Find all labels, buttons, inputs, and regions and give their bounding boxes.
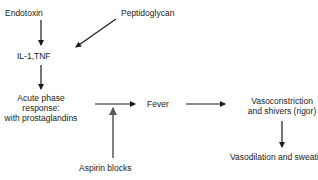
node-endotoxin: Endotoxin xyxy=(5,8,43,18)
vasoconstriction-line-2: and shivers (rigor) xyxy=(243,106,318,116)
node-il1-tnf: IL-1,TNF xyxy=(17,51,51,61)
node-fever: Fever xyxy=(147,99,169,109)
node-aspirin: Aspirin blocks xyxy=(79,163,131,173)
vasoconstriction-line-1: Vasoconstriction xyxy=(243,96,318,106)
node-vasoconstriction: Vasoconstriction and shivers (rigor) xyxy=(243,96,318,116)
acute-phase-line-3: with prostaglandins xyxy=(4,113,78,123)
arrow-peptidoglycan-to-il1 xyxy=(76,19,116,47)
node-vasodilation: Vasodilation and sweating xyxy=(230,152,318,162)
node-acute-phase: Acute phase response: with prostaglandin… xyxy=(4,93,78,123)
node-peptidoglycan: Peptidoglycan xyxy=(121,8,174,18)
acute-phase-line-1: Acute phase xyxy=(4,93,78,103)
acute-phase-line-2: response: xyxy=(4,103,78,113)
